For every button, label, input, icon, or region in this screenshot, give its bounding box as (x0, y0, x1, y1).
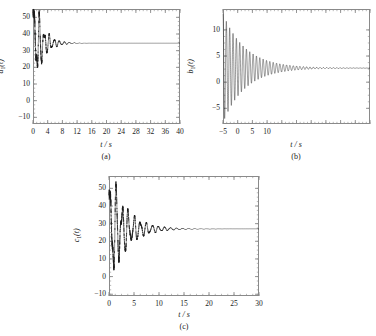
y-tick-label: 50 (82, 183, 106, 192)
y-tick-label: 20 (6, 62, 30, 71)
x-tick-label: 10 (255, 127, 279, 136)
y-tick-label: 30 (82, 219, 106, 228)
x-tick-label: 0 (97, 299, 121, 308)
y-tick-label: 40 (82, 201, 106, 210)
figure-damped-oscillations: a1(t) t / s (a) 0481216202428323640−1001… (0, 0, 376, 336)
y-tick-label: 0 (6, 96, 30, 105)
y-tick-label: 0 (196, 77, 220, 86)
x-tick-label: 15 (172, 299, 196, 308)
y-tick-label: 5 (196, 51, 220, 60)
plot-panel-a: a1(t) t / s (a) 0481216202428323640−1001… (0, 0, 188, 168)
y-tick-label: 40 (6, 29, 30, 38)
plot-panel-c: c1(t) t / s (c) 051015202530−10010203040… (70, 168, 310, 336)
panel-caption-b: (b) (256, 152, 336, 161)
y-tick-label: 10 (82, 254, 106, 263)
y-tick-label: −10 (6, 112, 30, 121)
y-tick-label: 0 (82, 272, 106, 281)
x-axis-label-a: t / s (66, 140, 146, 149)
panel-caption-c: (c) (144, 322, 224, 331)
y-tick-label: 10 (196, 25, 220, 34)
y-tick-label: 30 (6, 46, 30, 55)
x-tick-label: 30 (247, 299, 271, 308)
y-tick-label: 20 (82, 236, 106, 245)
y-tick-label: 10 (6, 79, 30, 88)
x-tick-label: 20 (197, 299, 221, 308)
y-tick-label: −10 (82, 289, 106, 298)
x-tick-label: 10 (147, 299, 171, 308)
x-tick-label: 25 (222, 299, 246, 308)
y-tick-label: 50 (6, 12, 30, 21)
y-tick-label: −5 (196, 103, 220, 112)
x-axis-label-b: t / s (256, 140, 336, 149)
x-axis-label-c: t / s (144, 310, 224, 319)
plot-panel-b: b1(t) t / s (b) −50510−50510 (188, 0, 376, 168)
x-tick-label: 5 (122, 299, 146, 308)
panel-caption-a: (a) (66, 152, 146, 161)
